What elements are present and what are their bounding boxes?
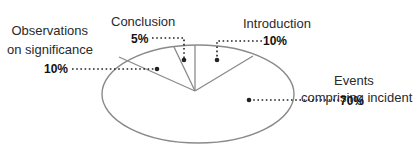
leader-dot-conclusion bbox=[182, 58, 187, 63]
label-conclusion: Conclusion bbox=[111, 14, 175, 29]
leader-dot-events bbox=[247, 98, 252, 103]
label-events-line1: Events bbox=[334, 73, 374, 88]
label-observations-line2: on significance bbox=[0, 42, 93, 57]
value-introduction: 10% bbox=[263, 34, 287, 48]
label-observations-line1: Observations bbox=[0, 23, 88, 38]
value-events: 70% bbox=[340, 94, 364, 108]
pie-outline bbox=[102, 45, 294, 143]
value-observations: 10% bbox=[44, 62, 68, 76]
leader-dot-introduction bbox=[215, 58, 220, 63]
leader-dot-observations bbox=[155, 67, 160, 72]
label-introduction: Introduction bbox=[243, 16, 311, 31]
value-conclusion: 5% bbox=[131, 32, 148, 46]
